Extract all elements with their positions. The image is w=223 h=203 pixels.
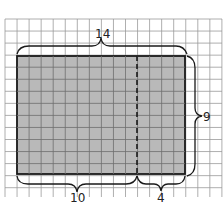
label-bottom-left: 10: [70, 191, 85, 203]
label-bottom-right: 4: [157, 191, 165, 203]
bottom-right-brace: [137, 176, 185, 191]
area-diagram: 14 9 10 4: [0, 0, 223, 203]
label-top: 14: [95, 27, 110, 41]
label-right: 9: [203, 110, 211, 124]
right-brace: [187, 56, 202, 176]
